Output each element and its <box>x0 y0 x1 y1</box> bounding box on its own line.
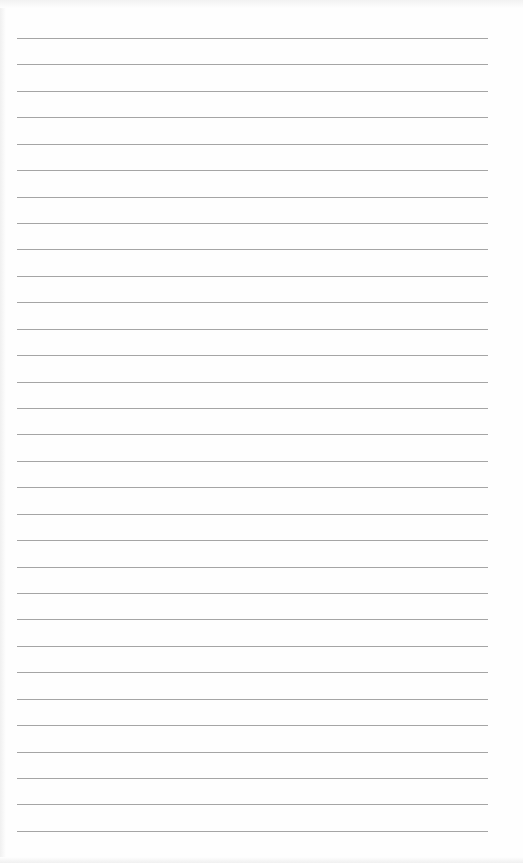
ruled-line <box>17 540 488 541</box>
ruled-line <box>17 170 488 171</box>
ruled-line <box>17 699 488 700</box>
ruled-line <box>17 672 488 673</box>
ruled-line <box>17 302 488 303</box>
ruled-line <box>17 117 488 118</box>
ruled-line <box>17 223 488 224</box>
ruled-line <box>17 487 488 488</box>
paper-bottom-edge-shadow <box>0 857 523 863</box>
ruled-line <box>17 778 488 779</box>
ruled-line <box>17 329 488 330</box>
ruled-line <box>17 434 488 435</box>
ruled-line <box>17 249 488 250</box>
ruled-line <box>17 355 488 356</box>
ruled-line <box>17 408 488 409</box>
ruled-line <box>17 831 488 832</box>
ruled-line <box>17 567 488 568</box>
ruled-line <box>17 197 488 198</box>
ruled-line <box>17 752 488 753</box>
ruled-line <box>17 144 488 145</box>
lined-paper-sheet <box>0 0 523 863</box>
paper-top-edge-shadow <box>0 0 523 8</box>
ruled-line <box>17 276 488 277</box>
ruled-line <box>17 725 488 726</box>
paper-left-edge-shadow <box>0 0 6 863</box>
ruled-line <box>17 382 488 383</box>
ruled-line <box>17 804 488 805</box>
ruled-line <box>17 593 488 594</box>
ruled-line <box>17 91 488 92</box>
ruled-line <box>17 64 488 65</box>
ruled-line <box>17 619 488 620</box>
ruled-line <box>17 38 488 39</box>
ruled-line <box>17 514 488 515</box>
ruled-line <box>17 461 488 462</box>
ruled-line <box>17 646 488 647</box>
